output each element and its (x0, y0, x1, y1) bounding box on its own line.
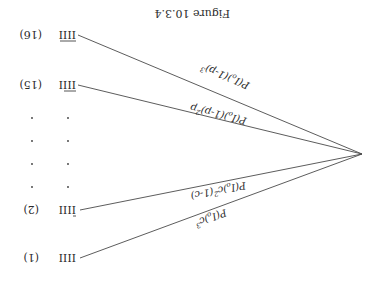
leaf-index: (1) (23, 251, 39, 264)
leaf-index: (2) (23, 203, 39, 216)
ellipsis-dots (31, 117, 69, 188)
edge-label-15: P(Io)(1-p)2p (188, 100, 249, 128)
leaf-1: IIII (1) (23, 251, 76, 264)
leaf-pattern: IIII (59, 203, 76, 216)
leaf-pattern: IIII (59, 28, 76, 41)
edge-branch-1 (80, 154, 362, 258)
edge-label-1: P(Io)c3 (192, 205, 229, 230)
leaf-index: (16) (19, 28, 42, 41)
edge-branch-2 (80, 154, 362, 210)
leaf-pattern: IIII (59, 78, 76, 91)
edge-label-2: P(Io)c2(1-c) (189, 178, 248, 203)
leaf-index: (15) (19, 78, 42, 91)
leaf-15: IIII (15) (19, 78, 76, 91)
tree-diagram: P(Io)c3 P(Io)c2(1-c) P(Io)(1-p)2p P(Io)(… (0, 0, 385, 282)
leaf-pattern: IIII (59, 251, 76, 264)
figure-caption: Figure 10.3.4 (154, 7, 230, 20)
edge-branch-16 (78, 35, 362, 154)
leaf-16: IIII (16) (19, 28, 76, 41)
figure-canvas: P(Io)c3 P(Io)c2(1-c) P(Io)(1-p)2p P(Io)(… (0, 0, 385, 282)
edge-label-16: P(Io)(1-p)3 (199, 59, 253, 92)
leaf-2: IIII (2) (23, 203, 76, 216)
